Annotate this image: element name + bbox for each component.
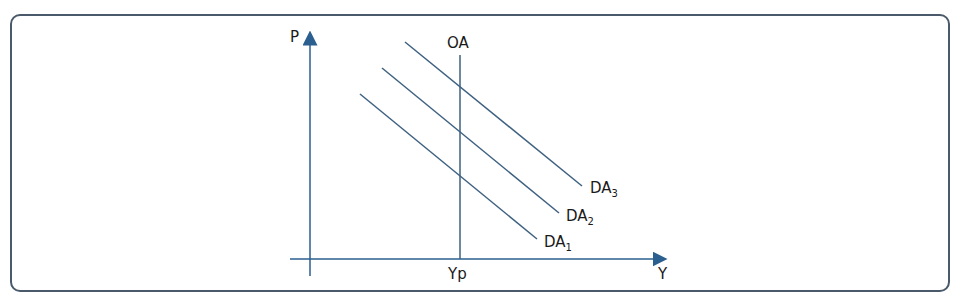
da2-curve bbox=[382, 68, 559, 213]
da3-curve bbox=[405, 42, 582, 186]
da1-label: DA1 bbox=[544, 233, 572, 253]
yp-label: Yp bbox=[447, 265, 467, 283]
x-axis-label: Y bbox=[657, 265, 668, 283]
da2-label: DA2 bbox=[566, 207, 594, 227]
ad-as-diagram: P OA Yp Y DA1 DA2 DA3 bbox=[0, 0, 963, 306]
y-axis-label: P bbox=[290, 28, 299, 46]
da3-label: DA3 bbox=[590, 179, 618, 199]
oa-label: OA bbox=[447, 34, 470, 52]
da1-curve bbox=[360, 94, 537, 239]
